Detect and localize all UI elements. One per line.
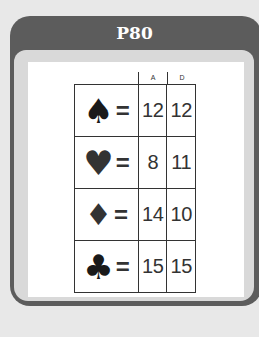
value-a: 15 — [138, 241, 167, 292]
value-d: 10 — [166, 189, 195, 240]
table-row-heart: ♥ = 8 11 — [75, 136, 195, 188]
equals-sign: = — [116, 253, 130, 281]
card-title: P80 — [10, 16, 259, 50]
symbol-cell: ♦ = — [75, 189, 138, 240]
value-d: 12 — [166, 85, 195, 136]
symbol-cell: ♥ = — [75, 137, 138, 188]
value-a: 14 — [138, 189, 167, 240]
table-rows: ♠ = 12 12 ♥ = 8 11 — [74, 84, 196, 293]
equals-sign: = — [116, 149, 130, 177]
column-header-d: D — [167, 72, 196, 84]
score-card: P80 A D ♠ = 12 12 — [10, 16, 259, 306]
heart-icon: ♥ — [83, 146, 113, 180]
value-d: 11 — [166, 137, 195, 188]
table-row-spade: ♠ = 12 12 — [75, 85, 195, 136]
table-row-diamond: ♦ = 14 10 — [75, 188, 195, 240]
card-frame: A D ♠ = 12 12 ♥ = — [14, 50, 254, 301]
club-icon: ♣ — [83, 250, 113, 284]
column-headers: A D — [74, 72, 196, 84]
suit-score-table: A D ♠ = 12 12 ♥ = — [74, 72, 196, 293]
column-header-a: A — [138, 72, 167, 84]
table-row-club: ♣ = 15 15 — [75, 240, 195, 292]
equals-sign: = — [114, 201, 128, 229]
symbol-cell: ♠ = — [75, 85, 138, 136]
equals-sign: = — [116, 97, 130, 125]
card-body: A D ♠ = 12 12 ♥ = — [28, 62, 244, 297]
value-a: 12 — [138, 85, 167, 136]
value-d: 15 — [166, 241, 195, 292]
spade-icon: ♠ — [83, 94, 113, 128]
diamond-icon: ♦ — [85, 200, 112, 230]
symbol-cell: ♣ = — [75, 241, 138, 292]
value-a: 8 — [138, 137, 167, 188]
